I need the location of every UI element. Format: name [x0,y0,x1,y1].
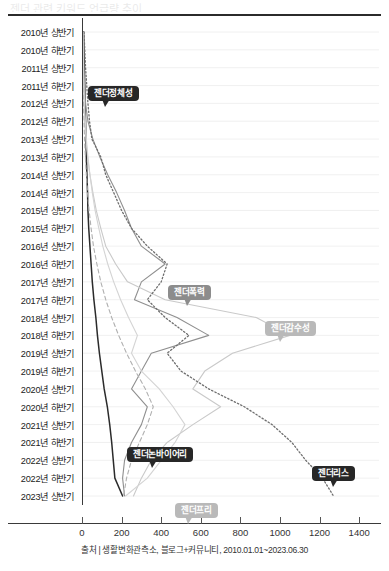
x-axis-label: 400 [153,527,169,538]
x-axis-tick [240,517,241,524]
x-axis-tick [201,517,202,524]
y-axis-label: 2017년 하반기 [21,293,74,307]
x-axis-label: 1400 [349,527,370,538]
y-axis-label: 2010년 하반기 [21,43,74,57]
y-axis-label: 2020년 상반기 [21,382,74,396]
y-axis-label: 2022년 상반기 [21,453,74,467]
x-axis-label: 200 [114,527,130,538]
y-axis-label: 2020년 하반기 [21,400,74,414]
callout: 젠더정체성 [88,86,139,101]
x-axis-tick [161,517,162,524]
y-axis-label: 2015년 하반기 [21,221,74,235]
callout: 젠더프리 [175,503,218,518]
callout-tail [185,516,193,524]
y-axis-label: 2011년 하반기 [21,79,74,93]
y-axis-label: 2013년 상반기 [21,132,74,146]
header-divider [8,14,381,16]
x-axis-line [8,523,381,524]
y-axis-label: 2010년 상반기 [21,25,74,39]
callout-tail [277,334,285,342]
y-axis-line [82,18,83,505]
y-axis-label: 2016년 상반기 [21,239,74,253]
y-axis-label: 2021년 상반기 [21,418,74,432]
y-axis-label: 2014년 하반기 [21,186,74,200]
source-note: 출처 | 생활변화관측소, 블로그+커뮤니티, 2010.01.01~2023.… [0,543,389,555]
x-axis-label: 800 [232,527,248,538]
ghost-title: 젠더 관련 키워드 언급량 추이 [10,0,260,12]
callout-tail [149,460,157,468]
y-axis-label: 2012년 상반기 [21,96,74,110]
x-axis-tick [359,517,360,524]
callout: 젠더논바이어리 [127,447,193,462]
callout-tail [184,298,192,306]
y-axis-label: 2018년 하반기 [21,328,74,342]
x-axis-tick [320,517,321,524]
y-axis-label: 2012년 하반기 [21,114,74,128]
y-axis-labels: 2010년 상반기2010년 하반기2011년 상반기2011년 하반기2012… [0,18,78,498]
x-axis-tick [82,517,83,524]
chart-page: 젠더 관련 키워드 언급량 추이 2010년 상반기2010년 하반기2011년… [0,0,389,571]
y-axis-label: 2018년 상반기 [21,311,74,325]
y-axis-label: 2016년 하반기 [21,257,74,271]
callout: 젠더감수성 [265,321,316,336]
y-axis-label: 2023년 상반기 [21,489,74,503]
y-axis-label: 2013년 하반기 [21,150,74,164]
x-axis-label: 1000 [269,527,290,538]
y-axis-label: 2017년 상반기 [21,275,74,289]
y-axis-label: 2019년 상반기 [21,346,74,360]
y-axis-label: 2015년 상반기 [21,203,74,217]
callout-label: 젠더정체성 [88,86,139,101]
callout-label: 젠더프리 [175,503,218,518]
callout-tail [330,479,338,487]
x-axis-tick [280,517,281,524]
y-axis-label: 2022년 하반기 [21,471,74,485]
callout-label: 젠더논바이어리 [127,447,193,462]
callout: 젠더폭력 [168,285,211,300]
chart-container: 2010년 상반기2010년 하반기2011년 상반기2011년 하반기2012… [0,18,389,518]
y-axis-label: 2019년 하반기 [21,364,74,378]
y-axis-label: 2011년 상반기 [21,61,74,75]
x-axis-label: 0 [79,527,84,538]
y-axis-label: 2021년 하반기 [21,435,74,449]
x-axis-label: 600 [193,527,209,538]
x-axis-tick [122,517,123,524]
callout-tail [102,99,110,107]
x-axis-label: 1200 [309,527,330,538]
callout: 젠더리스 [312,466,355,481]
y-axis-label: 2014년 상반기 [21,168,74,182]
callout-label: 젠더감수성 [265,321,316,336]
